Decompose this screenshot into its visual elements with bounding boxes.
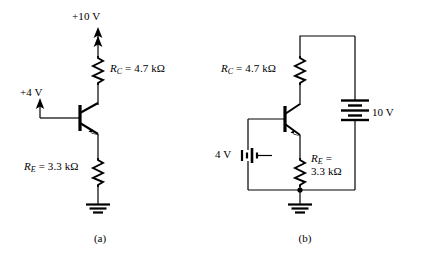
- supply-label-b: 10 V: [372, 106, 394, 118]
- emitter-resistor-symbol-a: R: [24, 160, 31, 172]
- collector-resistor-symbol-a: R: [110, 62, 117, 74]
- emitter-resistor-value-a: 3.3 kΩ: [48, 160, 79, 172]
- emitter-resistor-equals-a: =: [36, 160, 48, 172]
- resistor-re-a: [93, 158, 103, 187]
- schematic-canvas: [0, 0, 423, 259]
- battery-4v-b: [242, 148, 257, 163]
- emitter-resistor-equals-b: =: [323, 152, 332, 164]
- emitter-resistor-symbol-b: R: [311, 152, 318, 164]
- collector-resistor-value-a: 4.7 kΩ: [134, 62, 165, 74]
- collector-resistor-symbol-b: R: [221, 62, 228, 74]
- caption-b: (b): [285, 232, 325, 244]
- collector-resistor-value-b: 4.7 kΩ: [245, 62, 276, 74]
- transistor-b: [248, 104, 302, 137]
- collector-resistor-equals-b: =: [233, 62, 245, 74]
- emitter-resistor-value-b: 3.3 kΩ: [311, 165, 342, 177]
- wire-top-b: [300, 36, 355, 56]
- battery-10v-b: [341, 101, 369, 121]
- caption-a: (a): [80, 232, 120, 244]
- transistor-a: [62, 103, 100, 136]
- base-supply-label-b: 4 V: [215, 148, 231, 160]
- resistor-rc-a: [93, 56, 103, 85]
- supply-arrow-a: [94, 27, 103, 56]
- collector-resistor-label-a: RC = 4.7 kΩ: [110, 62, 165, 78]
- emitter-resistor-label-a: RE = 3.3 kΩ: [24, 160, 79, 176]
- collector-resistor-equals-a: =: [122, 62, 134, 74]
- collector-resistor-label-b: RC = 4.7 kΩ: [221, 62, 276, 78]
- base-supply-arrow-a: [36, 98, 62, 118]
- ground-symbol-b: [288, 205, 312, 213]
- ground-symbol-a: [86, 205, 110, 213]
- base-supply-label-a: +4 V: [20, 86, 43, 98]
- resistor-rc-b: [295, 56, 305, 85]
- supply-label-a: +10 V: [72, 10, 100, 22]
- resistor-re-b: [295, 158, 305, 187]
- circuit-a-group: [36, 27, 110, 213]
- circuit-figure: +10 V +4 V RC = 4.7 kΩ RE = 3.3 kΩ (a) R…: [0, 0, 423, 259]
